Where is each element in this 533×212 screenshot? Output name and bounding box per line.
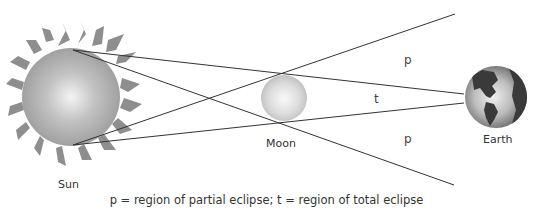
moon-icon [261,75,307,121]
eclipse-diagram: p t p Moon Earth Sun p = region of parti… [0,0,533,212]
region-label-total: t [374,93,379,105]
region-label-partial-top: p [404,54,412,66]
sun-icon [22,48,120,146]
earth-icon [465,66,528,128]
eclipse-svg [0,0,533,212]
sun-label: Sun [58,179,79,190]
moon-label: Moon [266,138,296,149]
diagram-caption: p = region of partial eclipse; t = regio… [0,193,533,207]
region-label-partial-bottom: p [404,133,412,145]
earth-label: Earth [483,134,513,145]
